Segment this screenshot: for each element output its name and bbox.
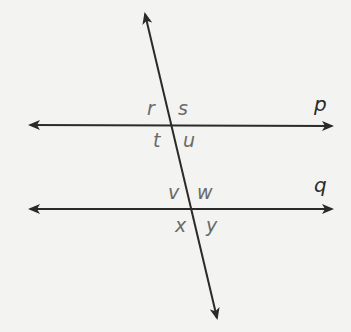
angle-label-u: u <box>183 129 195 151</box>
angle-label-s: s <box>178 97 188 119</box>
line-label-p: p <box>313 92 327 116</box>
angle-label-x: x <box>174 214 187 236</box>
parallel-lines-diagram: p q r s t u v w x y <box>0 0 351 332</box>
line-label-q: q <box>314 173 327 197</box>
angle-label-t: t <box>153 129 162 151</box>
angle-label-r: r <box>147 97 156 119</box>
angle-label-y: y <box>205 214 218 236</box>
angle-label-w: w <box>197 181 213 203</box>
transversal-line <box>145 14 217 318</box>
line-p <box>30 125 332 126</box>
angle-label-v: v <box>168 181 180 203</box>
